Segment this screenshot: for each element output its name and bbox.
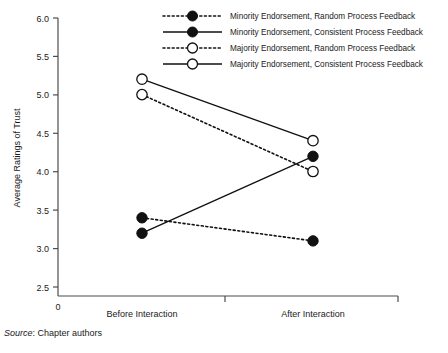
y-tick-label: 6.0 (36, 14, 49, 24)
data-point-majority-random-before (137, 89, 147, 99)
y-tick-label: 5.0 (36, 90, 49, 100)
y-tick-label: 4.0 (36, 167, 49, 177)
x-category-label-before: Before Interaction (106, 309, 177, 319)
legend-item-majority-random: Majority Endorsement, Random Process Fee… (163, 43, 416, 53)
open-circle-icon (188, 43, 198, 53)
data-point-majority-consistent-after (308, 136, 318, 146)
y-tick-label: 2.5 (36, 283, 49, 293)
y-tick-label: 3.0 (36, 244, 49, 254)
data-point-minority-random-before (137, 213, 147, 223)
y-tick-label: 3.5 (36, 206, 49, 216)
data-point-majority-consistent-before (137, 74, 147, 84)
y-axis-tick-labels: 6.0 5.5 5.0 4.5 4.0 3.5 3.0 2.5 (36, 14, 49, 293)
legend-item-label: Minority Endorsement, Random Process Fee… (230, 12, 416, 21)
data-point-minority-consistent-before (137, 228, 147, 238)
legend-item-label: Majority Endorsement, Consistent Process… (230, 60, 424, 69)
y-tick-label: 5.5 (36, 52, 49, 62)
trust-ratings-line-chart: 6.0 5.5 5.0 4.5 4.0 3.5 3.0 2.5 0 Before… (0, 0, 448, 353)
data-point-minority-consistent-after (308, 151, 318, 161)
y-tick-label: 4.5 (36, 129, 49, 139)
filled-circle-icon (188, 27, 198, 37)
filled-circle-icon (188, 11, 198, 21)
series-line-minority-consistent (142, 156, 313, 233)
data-point-majority-random-after (308, 166, 318, 176)
x-axis-ticks (225, 296, 398, 302)
legend-item-minority-consistent: Minority Endorsement, Consistent Process… (163, 27, 424, 37)
chart-legend: Minority Endorsement, Random Process Fee… (163, 11, 424, 69)
open-circle-icon (188, 59, 198, 69)
series-line-majority-random (142, 95, 313, 172)
source-separator: : (33, 328, 36, 338)
data-point-minority-random-after (308, 236, 318, 246)
series-line-majority-consistent (142, 79, 313, 141)
chart-figure: 6.0 5.5 5.0 4.5 4.0 3.5 3.0 2.5 0 Before… (0, 0, 448, 353)
y-axis-ticks (53, 18, 58, 287)
y-axis-title: Average Ratings of Trust (12, 108, 22, 207)
legend-item-label: Majority Endorsement, Random Process Fee… (230, 44, 416, 53)
source-note: Source: Chapter authors (4, 328, 102, 338)
source-text: Chapter authors (38, 328, 103, 338)
legend-item-label: Minority Endorsement, Consistent Process… (230, 28, 424, 37)
legend-item-minority-random: Minority Endorsement, Random Process Fee… (163, 11, 416, 21)
legend-item-majority-consistent: Majority Endorsement, Consistent Process… (163, 59, 424, 69)
x-origin-label: 0 (55, 302, 60, 312)
x-category-label-after: After Interaction (281, 309, 345, 319)
source-label: Source (4, 328, 33, 338)
